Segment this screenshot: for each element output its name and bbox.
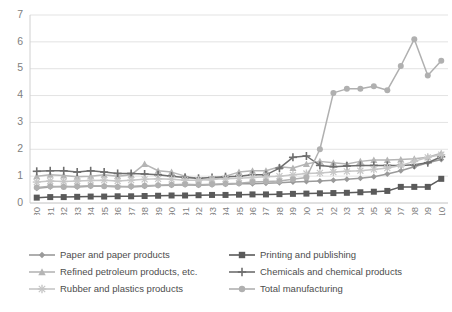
data-point-marker xyxy=(425,72,431,78)
data-point-marker xyxy=(397,161,405,169)
data-point-marker xyxy=(223,192,229,198)
data-point-marker xyxy=(73,168,81,176)
legend-item-label: Printing and publishing xyxy=(260,249,356,260)
data-point-marker xyxy=(371,189,377,195)
data-point-marker xyxy=(46,167,54,175)
x-axis-tick-label: 1993 xyxy=(207,207,218,215)
legend-item[interactable]: Chemicals and chemical products xyxy=(228,266,446,278)
data-point-marker xyxy=(317,190,323,196)
data-point-marker xyxy=(88,183,94,189)
x-axis-tick-label: 1988 xyxy=(139,207,150,215)
x-axis-tick-label: 1984 xyxy=(85,207,96,215)
x-axis-tick-label: 1997 xyxy=(260,207,271,215)
x-axis-tick-label: 1990 xyxy=(166,207,177,215)
data-point-marker xyxy=(142,193,148,199)
data-point-marker xyxy=(384,87,390,93)
data-point-marker xyxy=(209,192,215,198)
x-axis-tick-label: 1982 xyxy=(58,207,69,215)
legend-item[interactable]: Paper and paper products xyxy=(28,249,228,261)
data-point-marker xyxy=(330,190,336,196)
legend-item-label: Rubber and plastics products xyxy=(60,283,183,294)
x-axis-tick-label: 1998 xyxy=(274,207,285,215)
legend-item[interactable]: Printing and publishing xyxy=(228,249,446,261)
data-point-marker xyxy=(128,193,134,199)
data-point-marker xyxy=(398,63,404,69)
legend-item[interactable]: Refined petroleum products, etc. xyxy=(28,266,228,278)
y-axis-tick-label: 0 xyxy=(17,196,23,208)
data-point-marker xyxy=(74,183,80,189)
data-point-marker xyxy=(196,182,202,188)
legend-item-label: Chemicals and chemical products xyxy=(260,266,402,277)
data-point-marker xyxy=(115,193,121,199)
data-point-marker xyxy=(357,86,363,92)
data-point-marker xyxy=(290,191,296,197)
data-point-marker xyxy=(155,193,161,199)
data-point-marker xyxy=(276,178,282,184)
y-axis-tick-label: 3 xyxy=(17,115,23,127)
data-point-marker xyxy=(424,153,432,161)
data-point-marker xyxy=(384,188,390,194)
x-axis-tick-label: 1996 xyxy=(247,207,258,215)
x-axis-tick-label: 2001 xyxy=(314,207,325,215)
legend-item[interactable]: Total manufacturing xyxy=(228,283,446,295)
legend-item-label: Refined petroleum products, etc. xyxy=(60,266,197,277)
data-point-marker xyxy=(196,192,202,198)
data-point-marker xyxy=(316,169,324,177)
data-point-marker xyxy=(383,164,391,172)
data-point-marker xyxy=(398,184,404,190)
series-total-manufacturing xyxy=(34,36,445,190)
data-point-marker xyxy=(142,183,148,189)
chart-container: 0123456719801981198219831984198519861987… xyxy=(0,0,452,312)
legend-item[interactable]: Rubber and plastics products xyxy=(28,283,228,295)
data-point-marker xyxy=(290,176,296,182)
data-point-marker xyxy=(114,177,122,185)
y-axis-tick-label: 7 xyxy=(17,8,23,20)
x-axis-tick-label: 2007 xyxy=(395,207,406,215)
data-point-marker xyxy=(263,191,269,197)
data-point-marker xyxy=(329,168,337,176)
data-point-marker xyxy=(61,194,67,200)
y-axis-tick-label: 6 xyxy=(17,35,23,47)
data-point-marker xyxy=(370,165,378,173)
x-axis-tick-label: 1995 xyxy=(234,207,245,215)
data-point-marker xyxy=(115,184,121,190)
x-axis-tick-label: 1981 xyxy=(45,207,56,215)
data-point-marker xyxy=(236,180,242,186)
circle-marker-icon xyxy=(228,283,256,295)
data-point-marker xyxy=(169,182,175,188)
data-point-marker xyxy=(87,167,95,175)
data-point-marker xyxy=(344,86,350,92)
y-axis-tick-label: 2 xyxy=(17,142,23,154)
data-point-marker xyxy=(371,83,377,89)
x-axis-tick-label: 2000 xyxy=(301,207,312,215)
data-point-marker xyxy=(101,183,107,189)
data-point-marker xyxy=(60,167,68,175)
data-point-marker xyxy=(100,176,108,184)
data-point-marker xyxy=(34,184,40,190)
figure-caption xyxy=(8,300,308,310)
data-point-marker xyxy=(344,190,350,196)
data-point-marker xyxy=(317,146,323,152)
line-chart: 0123456719801981198219831984198519861987… xyxy=(0,0,452,215)
data-point-marker xyxy=(61,184,67,190)
plot-area: 0123456719801981198219831984198519861987… xyxy=(0,0,452,215)
y-axis-tick-label: 5 xyxy=(17,61,23,73)
star-marker-icon xyxy=(28,283,56,295)
x-axis-tick-label: 1983 xyxy=(72,207,83,215)
data-point-marker xyxy=(34,195,40,201)
data-point-marker xyxy=(141,161,148,168)
x-axis-tick-label: 1999 xyxy=(287,207,298,215)
data-point-marker xyxy=(33,167,41,175)
x-axis-tick-label: 1994 xyxy=(220,207,231,215)
x-axis-tick-label: 1987 xyxy=(126,207,137,215)
cross-marker-icon xyxy=(228,266,256,278)
legend-item-label: Paper and paper products xyxy=(60,249,170,260)
data-point-marker xyxy=(154,175,162,183)
data-point-marker xyxy=(411,36,417,42)
data-point-marker xyxy=(438,58,444,64)
x-axis-tick-label: 2002 xyxy=(328,207,339,215)
data-point-marker xyxy=(155,182,161,188)
data-point-marker xyxy=(343,167,351,175)
data-point-marker xyxy=(249,191,255,197)
data-point-marker xyxy=(249,179,255,185)
